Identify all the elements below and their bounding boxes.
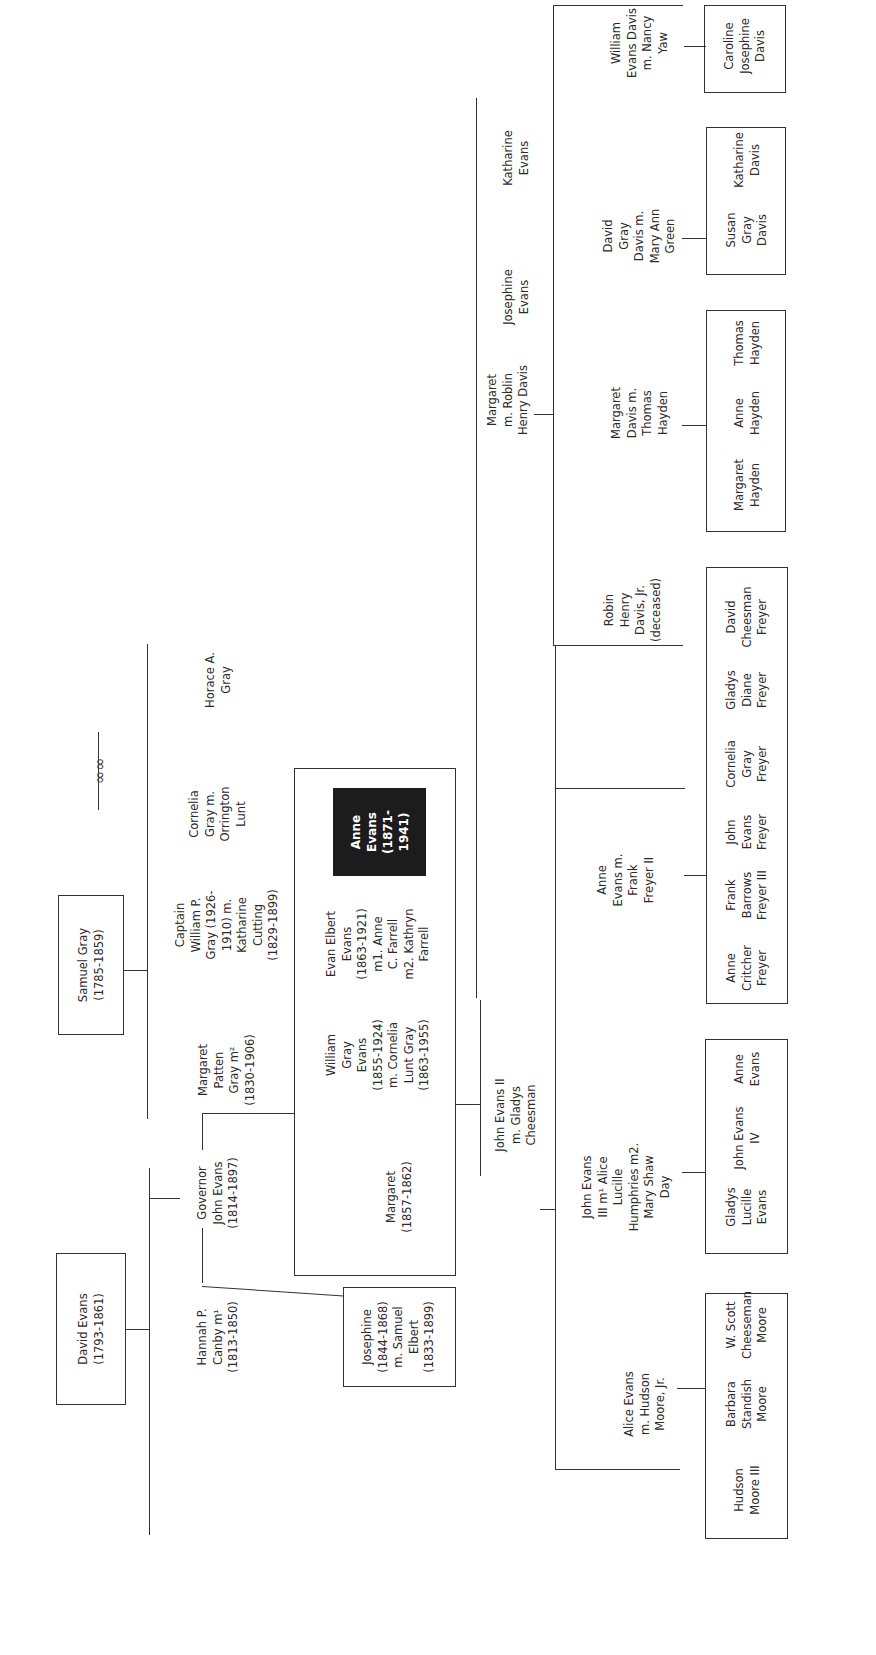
connector xyxy=(555,788,685,789)
sibling-bar-gen4 xyxy=(480,1000,481,1104)
person-horace-gray: Horace A. Gray xyxy=(203,652,234,708)
grandchild-freyer-3: John Evans Freyer xyxy=(724,814,771,850)
grandchild-freyer-4: Cornelia Gray Freyer xyxy=(724,740,771,787)
grandchild-evans-3: Anne Evans xyxy=(732,1052,763,1086)
grandchild-freyer-1: Anne Critcher Freyer xyxy=(724,945,771,991)
connector xyxy=(682,425,706,426)
person-josephine-evans: Josephine Evans xyxy=(501,269,532,325)
person-hannah-canby: Hannah P. Canby m¹ (1813-1850) xyxy=(195,1301,242,1373)
grandchild-green-davis-2: Katharine Davis xyxy=(732,132,763,188)
grandchild-yaw-davis-1: Caroline Josephine Davis xyxy=(722,18,769,74)
person-evan-elbert-evans: Evan Elbert Evans (1863-1921) m1. Anne C… xyxy=(324,908,433,980)
grandchild-moore-1: Hudson Moore III xyxy=(732,1465,763,1514)
person-margaret-davis: Margaret m. Roblin Henry Davis xyxy=(485,365,532,435)
connector xyxy=(677,1388,705,1389)
person-william-evans-davis: William Evans Davis m. Nancy Yaw xyxy=(609,8,671,78)
person-cornelia-gray: Cornelia Gray m. Orrington Lunt xyxy=(187,787,249,842)
connector xyxy=(534,414,553,415)
grandchild-freyer-2: Frank Barrows Freyer III xyxy=(724,870,771,920)
person-anne-evans-freyer: Anne Evans m. Frank Freyer II xyxy=(595,854,657,907)
grandchild-hayden-1: Margaret Hayden xyxy=(732,459,763,511)
connector xyxy=(126,1329,149,1330)
connector xyxy=(456,1104,481,1105)
sibling-bar-gray xyxy=(147,644,148,1119)
grandchild-green-davis-1: Susan Gray Davis xyxy=(724,213,771,248)
person-katharine-evans: Katharine Evans xyxy=(501,130,532,186)
grandchild-evans-2: John Evans IV xyxy=(732,1106,763,1169)
person-alice-evans: Alice Evans m. Hudson Moore, Jr. xyxy=(622,1371,669,1437)
connector xyxy=(202,1113,295,1114)
person-john-evans-ii: John Evans II m. Gladys Cheesman xyxy=(493,1078,540,1152)
connector xyxy=(682,1172,705,1173)
person-william-gray-evans: William Gray Evans (1855-1924) m. Cornel… xyxy=(324,1019,433,1091)
person-captain-william-gray: Captain William P. Gray (1926- 1910) m. … xyxy=(173,889,282,961)
person-governor-john-evans: Governor John Evans (1814-1897) xyxy=(195,1157,242,1229)
connector xyxy=(553,645,683,646)
grandchild-evans-1: Gladys Lucille Evans xyxy=(724,1187,771,1226)
connector xyxy=(124,970,147,971)
sibling-bar-john-ii-children xyxy=(555,645,556,1470)
grandchild-freyer-6: David Cheesman Freyer xyxy=(724,587,771,648)
person-margaret-1857: Margaret (1857-1862) xyxy=(384,1161,415,1233)
person-david-gray-davis: David Gray Davis m. Mary Ann Green xyxy=(601,209,679,264)
grandchild-hayden-3: Thomas Hayden xyxy=(732,320,763,366)
connector xyxy=(202,1228,203,1283)
person-anne-evans-highlighted: Anne Evans (1871- 1941) xyxy=(348,810,412,854)
connector xyxy=(149,1198,180,1199)
person-samuel-gray: Samuel Gray (1785-1859) xyxy=(76,928,107,1002)
connector xyxy=(684,875,706,876)
sibling-bar-margaret-davis xyxy=(476,98,477,998)
connector xyxy=(540,1209,555,1210)
person-david-evans: David Evans (1793-1861) xyxy=(76,1293,107,1365)
connector xyxy=(555,1469,680,1470)
person-john-evans-iii: John Evans III m¹ Alice Lucille Humphrie… xyxy=(580,1143,673,1232)
person-robin-davis-jr: Robin Henry Davis, Jr. (deceased) xyxy=(602,578,664,642)
person-josephine-evans-elbert: Josephine (1844-1868) m. Samuel Elbert (… xyxy=(360,1301,438,1373)
sibling-bar-davis-children xyxy=(553,5,554,645)
sibling-bar-evans xyxy=(149,1168,150,1535)
grandchild-moore-2: Barbara Standish Moore xyxy=(724,1379,771,1429)
connector xyxy=(480,1104,481,1176)
connector xyxy=(684,46,706,47)
person-margaret-davis-hayden: Margaret Davis m. Thomas Hayden xyxy=(609,387,671,439)
grandchild-freyer-5: Gladys Diane Freyer xyxy=(724,670,771,709)
connector xyxy=(202,1286,344,1296)
grandchild-hayden-2: Anne Hayden xyxy=(732,391,763,435)
connector xyxy=(682,238,706,239)
person-margaret-patten-gray: Margaret Patten Gray m² (1830-1906) xyxy=(196,1034,258,1106)
connector xyxy=(553,5,683,6)
grandchild-moore-3: W. Scott Cheeseman Moore xyxy=(724,1291,771,1359)
connector xyxy=(202,1113,203,1150)
knot-ornament-icon: ∞∞ xyxy=(90,758,109,785)
